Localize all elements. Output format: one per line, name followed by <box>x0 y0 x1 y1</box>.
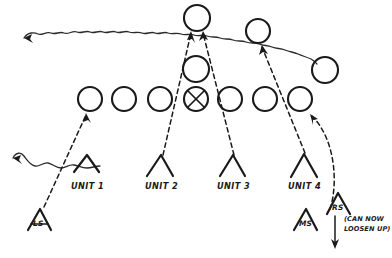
unit-4-label: UNIT 4 <box>288 181 321 191</box>
unit-marker-1 <box>74 155 99 172</box>
rs-down-arrow <box>331 216 339 249</box>
circle-upper-right <box>246 19 270 43</box>
circle-top <box>184 5 210 31</box>
connector-unit3-to-top-circle <box>199 31 234 155</box>
circle-far-right <box>312 57 338 83</box>
unit-3-label: UNIT 3 <box>217 181 250 191</box>
circle-row <box>78 87 312 111</box>
note-line-2: LOOSEN UP) <box>344 225 390 233</box>
unit-marker-4 <box>291 154 317 177</box>
circle-row-item-1 <box>78 87 102 111</box>
unit-marker-2 <box>147 155 173 176</box>
circle-row-item-6 <box>253 87 277 111</box>
ls-label: LS <box>33 219 43 228</box>
connector-rs-to-circle-7 <box>310 114 334 209</box>
unit-marker-3 <box>220 155 245 176</box>
connector-unit4-arrowhead <box>259 45 268 55</box>
connector-rs-arrowhead <box>310 114 318 125</box>
connector-unit4-to-upper-right-circle <box>259 45 305 153</box>
ms-label: MS <box>299 219 312 228</box>
circle-row-item-2 <box>112 87 136 111</box>
rs-label: RS <box>332 203 343 212</box>
circle-row-item-7 <box>288 87 312 111</box>
formation-diagram: UNIT 1 UNIT 2 UNIT 3 UNIT 4 LS MS RS (CA… <box>0 0 392 258</box>
wavy-line-top <box>24 31 317 64</box>
connector-unit2-arrowhead <box>187 31 195 43</box>
circle-row-item-4-marked <box>184 87 208 111</box>
unit-2-label: UNIT 2 <box>145 181 178 191</box>
circle-row-item-3 <box>148 87 172 111</box>
circle-row-item-5 <box>218 87 242 111</box>
note-line-1: (CAN NOW <box>344 215 385 223</box>
unit-1-label: UNIT 1 <box>71 181 104 191</box>
circle-mid <box>183 56 209 82</box>
diagram-canvas: UNIT 1 UNIT 2 UNIT 3 UNIT 4 LS MS RS (CA… <box>0 0 392 258</box>
